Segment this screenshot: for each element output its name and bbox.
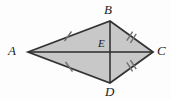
vertex-label-d: D <box>105 85 114 98</box>
vertex-label-e: E <box>98 38 105 49</box>
vertex-label-a: A <box>8 44 16 57</box>
kite-diagram-svg <box>0 0 171 101</box>
geometry-figure: A B C D E <box>0 0 171 101</box>
vertex-label-b: B <box>104 3 112 16</box>
vertex-label-c: C <box>157 44 166 57</box>
